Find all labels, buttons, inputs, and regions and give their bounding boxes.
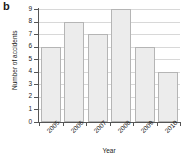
bar: [41, 47, 61, 122]
x-axis-title: Year: [39, 148, 179, 155]
y-tick-label: 5: [0, 56, 34, 63]
x-tick-mark: [86, 122, 87, 126]
y-tick-label: 0: [0, 119, 34, 126]
x-tick-mark: [39, 122, 40, 126]
gridline: [39, 9, 180, 10]
bar: [88, 34, 108, 122]
gridline: [39, 34, 180, 35]
bar: [135, 47, 155, 122]
y-tick-label: 8: [0, 18, 34, 25]
x-tick-mark: [157, 122, 158, 126]
x-tick-mark: [110, 122, 111, 126]
plot-area: [39, 9, 180, 122]
y-tick-label: 3: [0, 81, 34, 88]
y-tick-label: 6: [0, 43, 34, 50]
bar: [111, 9, 131, 122]
x-tick-mark: [63, 122, 64, 126]
bar: [64, 22, 84, 122]
y-tick-label: 1: [0, 106, 34, 113]
gridline: [39, 22, 180, 23]
y-tick-label: 7: [0, 31, 34, 38]
bar: [158, 72, 178, 122]
y-tick-label: 9: [0, 6, 34, 13]
y-tick-label: 4: [0, 68, 34, 75]
x-tick-mark: [180, 122, 181, 126]
figure-panel-b: b Number of accidents Year 0123456789 20…: [0, 0, 183, 162]
x-tick-mark: [133, 122, 134, 126]
y-tick-label: 2: [0, 93, 34, 100]
